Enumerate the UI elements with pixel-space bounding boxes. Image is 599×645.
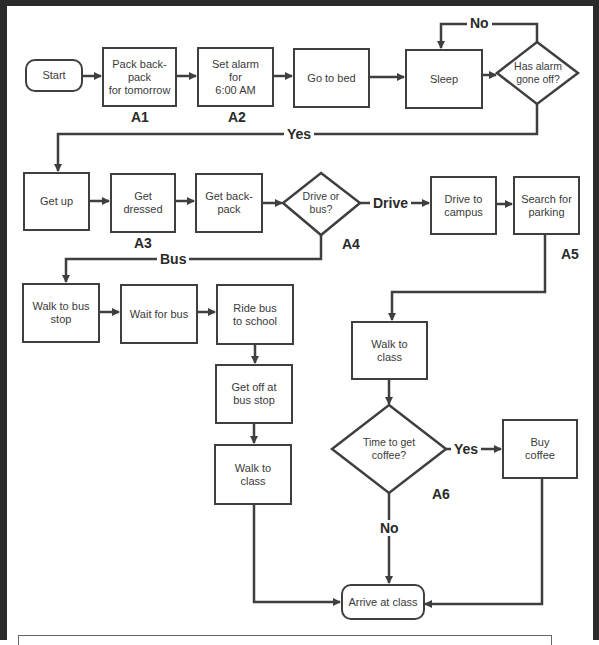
ride-bus-step: Ride bus to school xyxy=(216,284,294,345)
buy-coffee-step: Buy coffee xyxy=(502,419,578,479)
start-terminal: Start xyxy=(25,59,83,92)
coffee-decision-label: Time to get coffee? xyxy=(345,432,433,466)
wait-for-bus-step: Wait for bus xyxy=(120,284,198,344)
caption-box-edge xyxy=(18,635,552,645)
get-off-bus-step: Get off at bus stop xyxy=(215,364,293,424)
walk-to-class-drive-step: Walk to class xyxy=(351,321,428,380)
bus-edge-label: Bus xyxy=(157,251,189,267)
get-backpack-step: Get back- pack xyxy=(195,173,263,233)
set-alarm-step: Set alarm for 6:00 AM xyxy=(197,47,274,107)
get-up-step: Get up xyxy=(23,172,90,231)
drive-edge-label: Drive xyxy=(370,195,411,211)
get-dressed-step: Get dressed xyxy=(110,173,176,233)
coffee-no-label: No xyxy=(377,520,402,536)
sleep-step: Sleep xyxy=(405,49,483,109)
alarm-no-label: No xyxy=(467,15,492,31)
search-parking-step: Search for parking xyxy=(513,176,580,235)
step-tag-a5: A5 xyxy=(558,246,582,262)
step-tag-a3: A3 xyxy=(131,235,155,251)
step-tag-a4: A4 xyxy=(339,236,363,252)
go-to-bed-step: Go to bed xyxy=(293,48,370,108)
walk-to-class-bus-step: Walk to class xyxy=(214,444,292,505)
step-tag-a1: A1 xyxy=(128,109,152,125)
drive-to-campus-step: Drive to campus xyxy=(430,176,497,235)
coffee-yes-label: Yes xyxy=(451,441,481,457)
walk-to-bus-stop-step: Walk to bus stop xyxy=(22,283,100,343)
alarm-decision-label: Has alarm gone off? xyxy=(502,55,574,91)
arrive-terminal: Arrive at class xyxy=(341,584,425,620)
step-tag-a6: A6 xyxy=(429,486,453,502)
pack-backpack-step: Pack back- pack for tomorrow xyxy=(102,47,177,107)
alarm-yes-label: Yes xyxy=(284,126,314,142)
step-tag-a2: A2 xyxy=(225,109,249,125)
drive-or-bus-label: Drive or bus? xyxy=(290,186,352,220)
